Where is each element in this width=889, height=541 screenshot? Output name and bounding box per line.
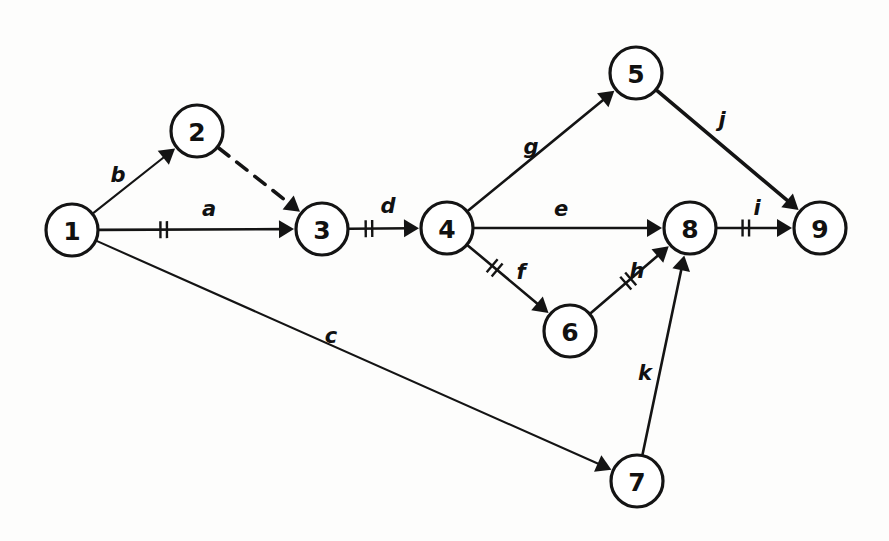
edge-k [643,263,683,454]
arrowhead-e [647,219,662,237]
diagram-canvas: 123456789 badgefhjick [0,0,889,541]
edge-f [468,246,542,308]
node-label-4: 4 [438,215,455,244]
node-4[interactable]: 4 [421,202,473,254]
arrowhead-k [672,255,690,272]
arrowhead-f [531,296,548,313]
arrowhead-d [404,219,419,237]
edge-label-k: k [638,361,654,385]
edge-label-b: b [110,163,125,187]
node-8[interactable]: 8 [664,202,716,254]
edge-label-g: g [523,135,538,159]
arrowhead-g [597,91,614,107]
network-diagram: 123456789 badgefhjick [0,0,889,541]
node-3[interactable]: 3 [296,203,348,255]
node-label-7: 7 [628,468,645,497]
edge-a [99,229,285,230]
node-label-5: 5 [627,60,644,89]
nodes-layer: 123456789 [46,47,846,507]
edge-label-i: i [753,196,761,220]
node-9[interactable]: 9 [794,202,846,254]
node-label-1: 1 [63,217,80,246]
edge-label-d: d [380,194,396,218]
arrowhead-a [279,220,294,238]
edge-label-f: f [516,260,528,284]
node-2[interactable]: 2 [171,105,223,157]
edge-label-j: j [715,108,726,132]
edge-label-h: h [630,259,645,283]
edge-label-a: a [202,197,216,221]
node-6[interactable]: 6 [544,305,596,357]
edge-b [94,154,169,213]
node-label-9: 9 [811,215,828,244]
edge-c [97,241,604,466]
arrowhead-i [777,219,792,237]
node-label-3: 3 [313,216,330,245]
node-label-2: 2 [188,118,205,147]
edge-label-e: e [554,197,568,221]
arrowhead-b [158,148,175,164]
node-label-6: 6 [561,318,578,347]
node-5[interactable]: 5 [610,47,662,99]
node-label-8: 8 [681,215,698,244]
node-7[interactable]: 7 [611,455,663,507]
node-1[interactable]: 1 [46,204,98,256]
edge-dummy [219,148,294,207]
edge-label-c: c [325,324,338,348]
arrowhead-dummy [283,195,300,211]
